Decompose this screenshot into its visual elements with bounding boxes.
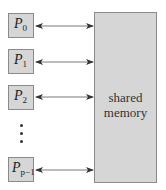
bidirectional-arrows — [0, 0, 166, 190]
